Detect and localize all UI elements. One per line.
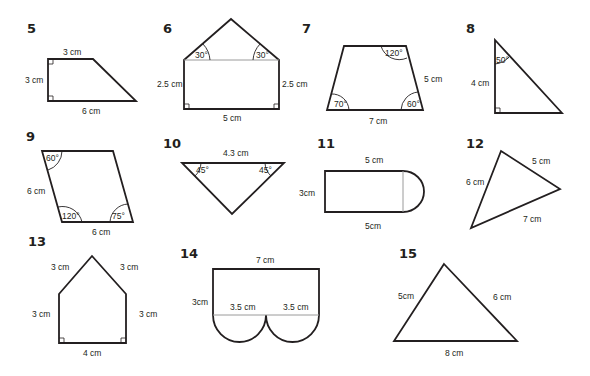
- problem-number: 7: [302, 21, 311, 36]
- label-diam-left: 3.5 cm: [230, 302, 256, 312]
- label-left: 3cm: [192, 297, 208, 307]
- problem-number: 12: [466, 136, 484, 151]
- problem-8: 8 50° 4 cm: [466, 21, 562, 113]
- right-triangle-shape: [495, 40, 562, 113]
- problem-12: 12 6 cm 5 cm 7 cm: [466, 136, 560, 228]
- problem-number: 11: [317, 136, 335, 151]
- trapezoid-shape: [48, 59, 136, 101]
- angle-bottom-left: 70°: [334, 99, 347, 109]
- label-right: 6 cm: [493, 292, 511, 302]
- problem-7: 7 120° 70° 60° 5 cm 7 cm: [302, 21, 442, 126]
- label-top: 5 cm: [365, 155, 383, 165]
- label-right: 3 cm: [139, 309, 157, 319]
- house-shape: [184, 19, 279, 109]
- problem-9: 9 60° 120° 75° 6 cm 6 cm: [26, 129, 133, 237]
- label-bottom: 4 cm: [83, 348, 101, 358]
- label-left: 5cm: [398, 291, 414, 301]
- angle-right: 45°: [259, 165, 272, 175]
- label-left: 3 cm: [32, 309, 50, 319]
- problem-6: 6 30° 30° 2.5 cm 2.5 cm 5 cm: [157, 19, 308, 123]
- problem-10: 10 45° 45° 4.3 cm: [163, 136, 284, 214]
- problem-number: 6: [163, 21, 172, 36]
- problem-number: 14: [180, 246, 198, 261]
- angle-right: 30°: [256, 50, 269, 60]
- label-bottom: 5cm: [365, 221, 381, 231]
- rounded-rectangle-shape: [325, 171, 424, 212]
- label-roof-left: 3 cm: [51, 262, 69, 272]
- label-bottom: 7 cm: [369, 116, 387, 126]
- label-top: 7 cm: [256, 255, 274, 265]
- label-diam-right: 3.5 cm: [283, 302, 309, 312]
- angle-left: 45°: [196, 165, 209, 175]
- problem-number: 5: [27, 21, 36, 36]
- label-top: 3 cm: [63, 47, 81, 57]
- label-bottom: 8 cm: [445, 348, 463, 358]
- label-bottom: 6 cm: [92, 227, 110, 237]
- angle-top: 50°: [496, 55, 509, 65]
- angle-left: 30°: [195, 50, 208, 60]
- label-left: 4 cm: [471, 78, 489, 88]
- problem-number: 10: [163, 136, 181, 151]
- label-top: 4.3 cm: [223, 148, 249, 158]
- problem-15: 15 5cm 6 cm 8 cm: [394, 246, 517, 358]
- problem-5: 5 3 cm 3 cm 6 cm: [25, 21, 136, 116]
- problem-number: 13: [28, 234, 46, 249]
- problem-number: 15: [399, 246, 417, 261]
- angle-bottom-right: 60°: [407, 99, 420, 109]
- label-top-right: 5 cm: [532, 156, 550, 166]
- label-bottom: 7 cm: [523, 214, 541, 224]
- label-left: 6 cm: [466, 177, 484, 187]
- label-left: 3cm: [299, 188, 315, 198]
- angle-bottom-right: 75°: [112, 211, 125, 221]
- label-left: 2.5 cm: [157, 79, 183, 89]
- angle-bottom-left: 120°: [62, 211, 80, 221]
- label-right: 2.5 cm: [282, 79, 308, 89]
- problem-number: 9: [26, 129, 35, 144]
- worksheet-figures: 5 3 cm 3 cm 6 cm 6 30° 30° 2.5 cm 2.5 cm…: [0, 0, 590, 376]
- label-left: 6 cm: [27, 186, 45, 196]
- label-right: 5 cm: [424, 74, 442, 84]
- label-bottom: 5 cm: [223, 113, 241, 123]
- problem-number: 8: [466, 21, 475, 36]
- label-bottom: 6 cm: [82, 106, 100, 116]
- problem-14: 14 7 cm 3cm 3.5 cm 3.5 cm: [180, 246, 319, 342]
- angle-top-left: 60°: [46, 153, 59, 163]
- label-roof-right: 3 cm: [120, 262, 138, 272]
- label-left: 3 cm: [25, 75, 43, 85]
- problem-13: 13 3 cm 3 cm 3 cm 3 cm 4 cm: [28, 234, 157, 358]
- angle-top-right: 120°: [385, 48, 403, 58]
- problem-11: 11 5 cm 3cm 5cm: [299, 136, 424, 231]
- triangle-shape: [394, 264, 517, 341]
